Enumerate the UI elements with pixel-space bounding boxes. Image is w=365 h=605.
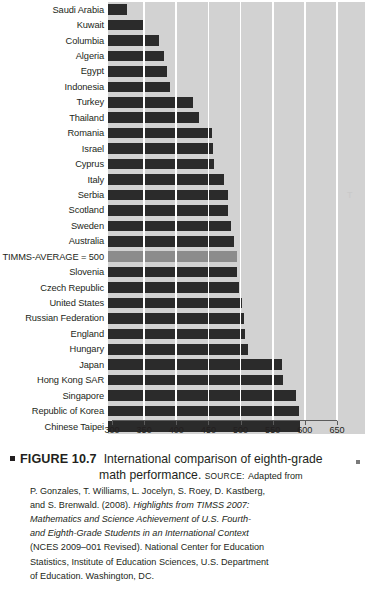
- bar: [108, 97, 193, 108]
- square-bullet-icon: [10, 456, 15, 461]
- bar-category-label: TIMMS-AVERAGE = 500: [0, 252, 108, 262]
- bar-track: [108, 126, 365, 141]
- bar-category-label: Hong Kong SAR: [0, 375, 108, 385]
- chart-row: Indonesia: [0, 79, 365, 94]
- bar: [108, 406, 299, 417]
- chart-row: Algeria: [0, 48, 365, 63]
- source-line-4: Statistics, Institute of Education Scien…: [30, 557, 269, 567]
- caption-first-line: FIGURE 10.7 International comparison of …: [0, 452, 365, 468]
- caption-title-part1: International comparison of eighth-grade: [104, 452, 323, 468]
- chart-row: Saudi Arabia: [0, 2, 365, 17]
- chart-row: Czech Republic: [0, 280, 365, 295]
- chart-row: Scotland: [0, 203, 365, 218]
- bar-category-label: Algeria: [0, 51, 108, 61]
- figure-number: FIGURE 10.7: [20, 452, 97, 466]
- bar-track: [108, 249, 365, 264]
- average-bar: [108, 251, 237, 262]
- chart-row: Egypt: [0, 64, 365, 79]
- bar: [108, 344, 248, 355]
- margin-glyph: T: [347, 190, 353, 200]
- bar-category-label: Indonesia: [0, 82, 108, 92]
- bar-track: [108, 234, 365, 249]
- bar: [108, 51, 164, 62]
- source-citation: P. Gonzales, T. Williams, L. Jocelyn, S.…: [0, 484, 365, 583]
- chart-row: Slovenia: [0, 264, 365, 279]
- bar-category-label: Saudi Arabia: [0, 5, 108, 15]
- bar: [108, 82, 170, 93]
- bar: [108, 20, 143, 31]
- bar-category-label: England: [0, 329, 108, 339]
- bar: [108, 236, 234, 247]
- bar-track: [108, 110, 365, 125]
- chart-row: Israel: [0, 141, 365, 156]
- bar: [108, 159, 214, 170]
- bar-track: [108, 33, 365, 48]
- bar-track: [108, 342, 365, 357]
- chart-rows: Saudi ArabiaKuwaitColumbiaAlgeriaEgyptIn…: [0, 2, 365, 434]
- source-line-3: (NCES 2009–001 Revised). National Center…: [30, 542, 264, 552]
- source-line-2: and S. Brenwald. (2008).: [30, 500, 133, 510]
- x-axis-tick-labels: 300350400450500550600650: [0, 421, 365, 435]
- chart-row: Russian Federation: [0, 311, 365, 326]
- x-axis-tick-label: 550: [265, 425, 280, 435]
- chart-row: Sweden: [0, 218, 365, 233]
- bar-track: [108, 373, 365, 388]
- bar: [108, 221, 231, 232]
- chart-row: Italy: [0, 172, 365, 187]
- bar-category-label: Turkey: [0, 97, 108, 107]
- bar-category-label: Slovenia: [0, 267, 108, 277]
- chart-row: England: [0, 326, 365, 341]
- bar-category-label: Russian Federation: [0, 313, 108, 323]
- bar-category-label: Columbia: [0, 36, 108, 46]
- bar-category-label: Cyprus: [0, 159, 108, 169]
- bar: [108, 128, 212, 139]
- chart-row: Romania: [0, 126, 365, 141]
- bar: [108, 282, 239, 293]
- bar: [108, 66, 167, 77]
- caption-title-tail: math performance.: [99, 468, 201, 482]
- bar-track: [108, 403, 365, 418]
- bar: [108, 298, 242, 309]
- bar: [108, 359, 282, 370]
- bar-category-label: Republic of Korea: [0, 406, 108, 416]
- chart-row: Singapore: [0, 388, 365, 403]
- chart-row: Hong Kong SAR: [0, 373, 365, 388]
- bar-track: [108, 295, 365, 310]
- bar-track: [108, 48, 365, 63]
- bar: [108, 190, 228, 201]
- source-lead: Adapted from: [248, 471, 303, 481]
- bar: [108, 375, 283, 386]
- x-axis-tick-label: 400: [169, 425, 184, 435]
- margin-square-bullet-icon: [356, 460, 360, 464]
- x-axis-tick-label: 600: [297, 425, 312, 435]
- bar: [108, 143, 213, 154]
- x-axis-tick-label: 300: [104, 425, 119, 435]
- caption-title-part2: math performance. Source: Adapted from: [0, 468, 365, 485]
- bar: [108, 174, 224, 185]
- chart-row: United States: [0, 295, 365, 310]
- bar-category-label: Israel: [0, 144, 108, 154]
- bar: [108, 4, 127, 15]
- bar-category-label: Czech Republic: [0, 283, 108, 293]
- bar-category-label: Egypt: [0, 66, 108, 76]
- bar-track: [108, 326, 365, 341]
- bar: [108, 313, 244, 324]
- bar-category-label: Scotland: [0, 205, 108, 215]
- chart-row: Republic of Korea: [0, 403, 365, 418]
- bar-track: [108, 218, 365, 233]
- chart-row: Australia: [0, 234, 365, 249]
- bar-track: [108, 172, 365, 187]
- bar-track: [108, 280, 365, 295]
- chart-row: Columbia: [0, 33, 365, 48]
- chart-row: Serbia: [0, 187, 365, 202]
- x-axis-tick-label: 500: [233, 425, 248, 435]
- chart-row: Cyprus: [0, 156, 365, 171]
- chart-row: Turkey: [0, 95, 365, 110]
- bar-track: [108, 357, 365, 372]
- bar-track: [108, 141, 365, 156]
- bar-category-label: Romania: [0, 128, 108, 138]
- bar-track: [108, 64, 365, 79]
- bar-category-label: United States: [0, 298, 108, 308]
- bar-track: [108, 17, 365, 32]
- x-axis-tick-label: 650: [329, 425, 344, 435]
